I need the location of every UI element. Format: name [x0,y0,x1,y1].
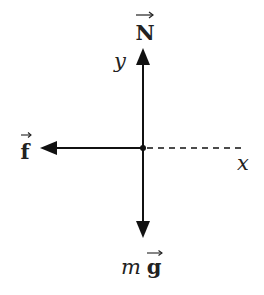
free-body-diagram: N y f x m g [0,0,264,295]
normal-force-arrow [136,48,150,148]
y-axis-label: y [113,49,127,73]
friction-force-label: f [20,133,31,165]
svg-text:g: g [147,254,162,279]
normal-force-label: N [135,12,154,45]
weight-force-arrow [136,148,150,238]
arrowhead-left-icon [40,141,57,155]
origin-point [140,145,146,151]
weight-force-label: m g [121,251,162,280]
x-axis-label: x [237,151,249,175]
svg-text:N: N [135,20,154,45]
friction-force-arrow [40,141,143,155]
arrowhead-up-icon [136,48,150,65]
svg-text:f: f [20,139,31,164]
svg-text:m: m [121,255,141,279]
arrowhead-down-icon [136,221,150,238]
